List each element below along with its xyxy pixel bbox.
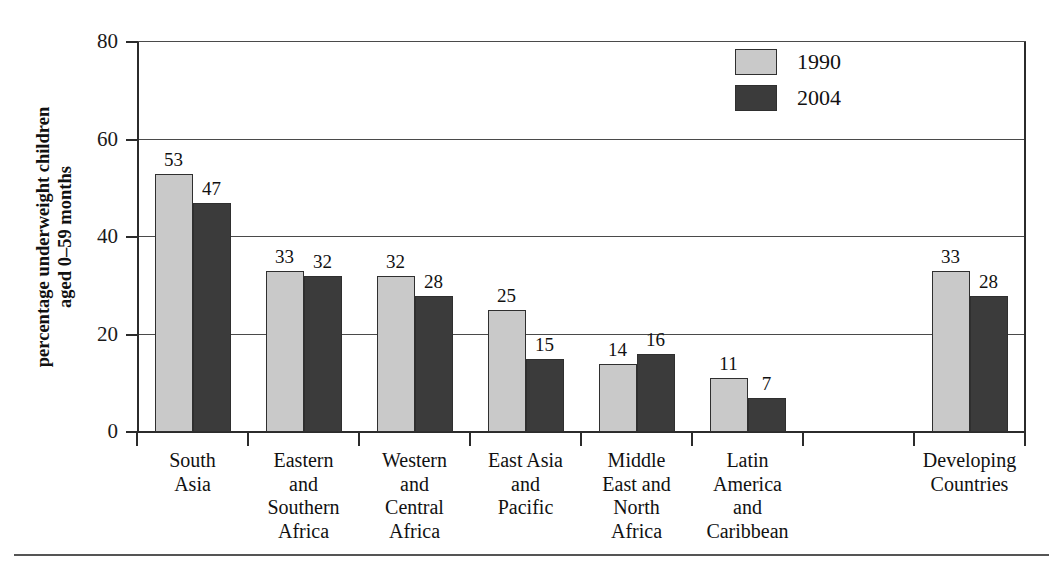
x-tick (136, 433, 138, 446)
x-tick (913, 433, 915, 446)
bottom-divider (14, 554, 1049, 556)
bar-2004-east-asia-and-pacific[interactable] (526, 359, 564, 432)
bar-value-label: 25 (477, 286, 537, 305)
bar-2004-developing-countries[interactable] (970, 296, 1008, 433)
bar-value-label: 15 (515, 335, 575, 354)
x-axis-label-latin-america-and-caribbean: LatinAmericaandCaribbean (668, 449, 828, 543)
bar-2004-eastern-and-southern-africa[interactable] (304, 276, 342, 432)
bar-2004-south-asia[interactable] (193, 203, 231, 432)
x-axis-label-line: and (668, 496, 828, 520)
x-tick (1024, 433, 1026, 446)
x-axis-label-line: Caribbean (668, 520, 828, 544)
bar-2004-middle-east-and-north-africa[interactable] (637, 354, 675, 432)
bar-chart-figure: percentage underweight children aged 0–5… (0, 0, 1063, 573)
bar-1990-developing-countries[interactable] (932, 271, 970, 432)
plot-area: 534733323228251514161173328 (137, 42, 1025, 432)
legend-swatch-1990 (735, 49, 777, 75)
bar-1990-eastern-and-southern-africa[interactable] (266, 271, 304, 432)
bar-value-label: 47 (182, 179, 242, 198)
bar-value-label: 28 (959, 272, 1019, 291)
bar-value-label: 33 (921, 247, 981, 266)
y-tick-label-20: 20 (74, 324, 118, 345)
y-tick-label-40: 40 (74, 226, 118, 247)
y-axis-title-line-2: aged 0–59 months (55, 166, 75, 308)
x-axis-label-developing-countries: DevelopingCountries (890, 449, 1050, 496)
bar-value-label: 7 (737, 374, 797, 393)
x-axis-label-line: Latin (668, 449, 828, 473)
bar-1990-western-and-central-africa[interactable] (377, 276, 415, 432)
x-tick (802, 433, 804, 446)
x-axis-label-line: America (668, 473, 828, 497)
bar-2004-latin-america-and-caribbean[interactable] (748, 398, 786, 432)
x-axis-label-line: Countries (890, 473, 1050, 497)
bar-value-label: 32 (366, 252, 426, 271)
x-tick (580, 433, 582, 446)
bar-value-label: 32 (293, 252, 353, 271)
bar-1990-east-asia-and-pacific[interactable] (488, 310, 526, 432)
bar-1990-middle-east-and-north-africa[interactable] (599, 364, 637, 432)
bar-value-label: 28 (404, 272, 464, 291)
bar-value-label: 11 (699, 354, 759, 373)
x-tick (691, 433, 693, 446)
y-tick-label-0: 0 (74, 421, 118, 442)
y-axis-title-line-1: percentage underweight children (33, 107, 53, 367)
legend-swatch-2004 (735, 85, 777, 111)
bar-2004-western-and-central-africa[interactable] (415, 296, 453, 433)
legend-label-2004: 2004 (797, 82, 841, 113)
x-tick (469, 433, 471, 446)
y-tick-label-80: 80 (74, 31, 118, 52)
bar-1990-south-asia[interactable] (155, 174, 193, 432)
x-tick (358, 433, 360, 446)
legend-label-1990: 1990 (797, 46, 841, 77)
bar-value-label: 16 (626, 330, 686, 349)
x-tick (247, 433, 249, 446)
x-axis-label-line: Developing (890, 449, 1050, 473)
bar-value-label: 53 (144, 150, 204, 169)
y-axis-title: percentage underweight children aged 0–5… (32, 42, 76, 432)
y-tick-label-60: 60 (74, 129, 118, 150)
x-axis-label-line: Africa (335, 520, 495, 544)
